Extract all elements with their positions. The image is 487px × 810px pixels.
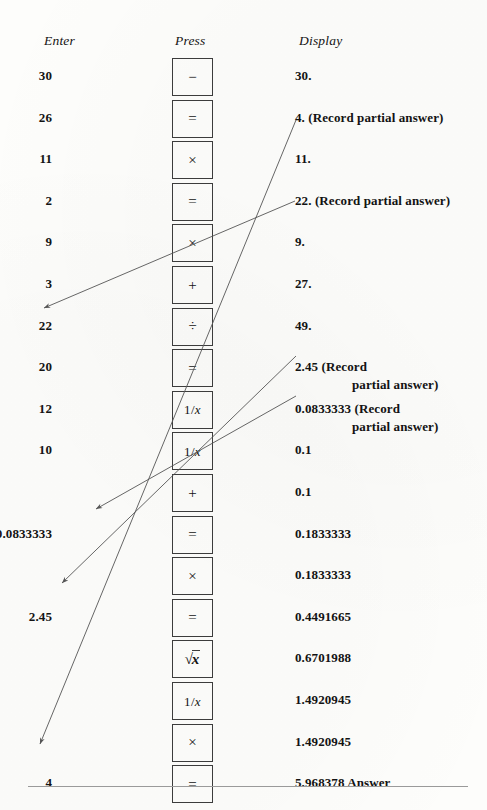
enter-value: 11 <box>0 151 52 167</box>
enter-value: 4 <box>0 775 52 791</box>
display-value-text: 0.0833333 (Record <box>295 401 400 416</box>
display-value-text: 0.1833333 <box>295 526 351 541</box>
display-value: 0.0833333 (Recordpartial answer) <box>295 401 438 435</box>
display-value-text: 0.1 <box>295 484 312 499</box>
display-value-text: 1.4920945 <box>295 734 351 749</box>
enter-value: 9 <box>0 234 52 250</box>
equals-key[interactable]: = <box>172 765 213 803</box>
reciprocal-key[interactable]: 1/x <box>172 682 213 720</box>
equals-key[interactable]: = <box>172 349 213 387</box>
display-value-text: 5.968378 Answer <box>295 775 390 790</box>
enter-value: 12 <box>0 401 52 417</box>
arrow-22-to-entry <box>44 201 295 308</box>
display-value: 11. <box>295 151 311 167</box>
reciprocal-key[interactable]: 1/x <box>172 432 213 470</box>
bottom-rule <box>28 786 468 787</box>
enter-value: 2 <box>0 193 52 209</box>
display-value-text: 9. <box>295 234 305 249</box>
multiply-key[interactable]: × <box>172 141 213 179</box>
reciprocal-key[interactable]: 1/x <box>172 391 213 429</box>
equals-key[interactable]: = <box>172 599 213 637</box>
display-value-continuation: partial answer) <box>352 419 438 435</box>
column-header-enter: Enter <box>44 33 75 49</box>
display-value-text: 0.1833333 <box>295 567 351 582</box>
plus-key[interactable]: + <box>172 474 213 512</box>
display-value-text: 22. (Record partial answer) <box>295 193 450 208</box>
display-value: 4. (Record partial answer) <box>295 110 443 126</box>
display-value: 0.1 <box>295 442 312 458</box>
display-value-text: 0.6701988 <box>295 650 351 665</box>
enter-value: 3 <box>0 276 52 292</box>
display-value-text: 0.1 <box>295 442 312 457</box>
minus-key[interactable]: − <box>172 58 213 96</box>
enter-value: 26 <box>0 110 52 126</box>
arrow-4-to-entry <box>40 120 296 744</box>
multiply-key[interactable]: × <box>172 557 213 595</box>
plus-key[interactable]: + <box>172 266 213 304</box>
display-value: 9. <box>295 234 305 250</box>
enter-value: 30 <box>0 68 52 84</box>
display-value: 30. <box>295 68 312 84</box>
display-value: 0.4491665 <box>295 609 351 625</box>
enter-value: 20 <box>0 359 52 375</box>
enter-value: 2.45 <box>0 609 52 625</box>
display-value-text: 2.45 (Record <box>295 359 367 374</box>
display-value-continuation: partial answer) <box>352 377 438 393</box>
display-value-text: 0.4491665 <box>295 609 351 624</box>
display-value: 1.4920945 <box>295 692 351 708</box>
display-value: 0.1833333 <box>295 567 351 583</box>
figure-page: Enter Press Display 30−30.26=4. (Record … <box>0 0 487 810</box>
display-value: 0.1833333 <box>295 526 351 542</box>
display-value: 22. (Record partial answer) <box>295 193 450 209</box>
display-value-text: 27. <box>295 276 312 291</box>
divide-key[interactable]: ÷ <box>172 308 213 346</box>
display-value-text: 30. <box>295 68 312 83</box>
display-value: 49. <box>295 318 312 334</box>
column-header-display: Display <box>299 33 342 49</box>
equals-key[interactable]: = <box>172 100 213 138</box>
display-value: 27. <box>295 276 312 292</box>
display-value: 0.6701988 <box>295 650 351 666</box>
display-value-text: 49. <box>295 318 312 333</box>
multiply-key[interactable]: × <box>172 724 213 762</box>
enter-value: 10 <box>0 442 52 458</box>
column-header-press: Press <box>175 33 206 49</box>
equals-key[interactable]: = <box>172 516 213 554</box>
display-value: 0.1 <box>295 484 312 500</box>
display-value: 5.968378 Answer <box>295 775 390 791</box>
display-value: 2.45 (Recordpartial answer) <box>295 359 438 393</box>
enter-value: 22 <box>0 318 52 334</box>
multiply-key[interactable]: × <box>172 224 213 262</box>
display-value: 1.4920945 <box>295 734 351 750</box>
square-root-key[interactable]: √x <box>172 640 213 678</box>
display-value-text: 1.4920945 <box>295 692 351 707</box>
display-value-text: 11. <box>295 151 311 166</box>
display-value-text: 4. (Record partial answer) <box>295 110 443 125</box>
equals-key[interactable]: = <box>172 183 213 221</box>
enter-value: 0.0833333 <box>0 526 52 542</box>
